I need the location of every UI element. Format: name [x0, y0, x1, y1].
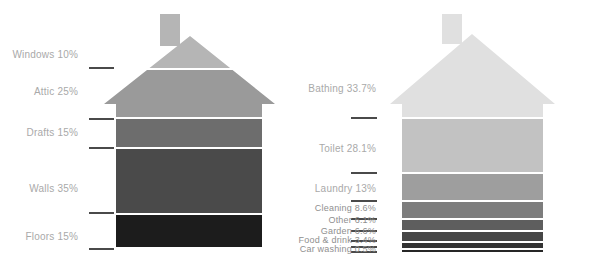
tick-floors [89, 248, 114, 250]
band-bathing [385, 0, 565, 117]
label-attic: Attic 25% [34, 87, 78, 97]
water-use-house-chart: Bathing 33.7% Toilet 28.1% Laundry 13% C… [300, 0, 605, 269]
water-use-bands [385, 0, 565, 253]
tick-windows [89, 67, 114, 69]
band-attic [100, 70, 280, 117]
label-other: Other 6.1% [328, 216, 376, 225]
label-windows: Windows 10% [12, 50, 78, 60]
band-garden [385, 232, 565, 241]
label-cleaning: Cleaning 8.6% [315, 204, 376, 213]
label-walls: Walls 35% [29, 184, 78, 194]
band-laundry [385, 174, 565, 200]
band-toilet [385, 119, 565, 172]
tick-laundry [351, 200, 377, 202]
tick-walls [89, 212, 114, 214]
infographic-canvas: Windows 10% Attic 25% Drafts 15% Walls 3… [0, 0, 605, 269]
label-laundry: Laundry 13% [315, 184, 376, 194]
band-windows [100, 0, 280, 68]
tick-toilet [351, 172, 377, 174]
band-drafts [100, 119, 280, 147]
band-walls [100, 149, 280, 213]
band-food-drink [385, 243, 565, 248]
band-cleaning [385, 202, 565, 218]
label-toilet: Toilet 28.1% [319, 144, 376, 154]
label-car-washing: Car washing 0.5% [300, 245, 376, 254]
tick-drafts [89, 147, 114, 149]
heat-loss-house-chart: Windows 10% Attic 25% Drafts 15% Walls 3… [0, 0, 300, 269]
band-other [385, 220, 565, 230]
label-drafts: Drafts 15% [27, 128, 78, 138]
heat-loss-bands [100, 0, 280, 249]
tick-bathing [351, 117, 377, 119]
band-floors [100, 215, 280, 249]
label-floors: Floors 15% [25, 232, 78, 242]
band-car-washing [385, 250, 565, 253]
label-bathing: Bathing 33.7% [308, 84, 376, 94]
tick-attic [89, 118, 114, 120]
